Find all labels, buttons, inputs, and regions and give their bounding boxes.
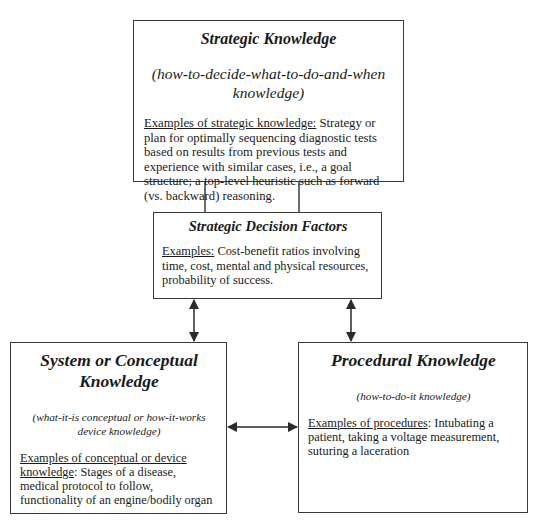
strategic-knowledge-examples: Examples of strategic knowledge: Strateg… <box>144 116 393 203</box>
procedural-knowledge-subtitle: (how-to-do-it knowledge) <box>308 389 519 403</box>
strategic-decision-factors-box: Strategic Decision Factors Examples: Cos… <box>153 212 382 299</box>
system-conceptual-knowledge-title: System or Conceptual Knowledge <box>20 350 218 392</box>
procedural-knowledge-box: Procedural Knowledge (how-to-do-it knowl… <box>298 342 528 513</box>
system-conceptual-knowledge-subtitle: (what-it-is conceptual or how-it-works d… <box>20 410 218 438</box>
examples-label: Examples: <box>162 244 214 258</box>
strategic-decision-factors-title: Strategic Decision Factors <box>162 217 374 235</box>
strategic-knowledge-title: Strategic Knowledge <box>144 29 393 48</box>
strategic-knowledge-box: Strategic Knowledge (how-to-decide-what-… <box>133 20 404 182</box>
examples-label: Examples of procedures <box>308 416 428 430</box>
strategic-decision-factors-examples: Examples: Cost-benefit ratios involving … <box>162 244 374 288</box>
system-conceptual-knowledge-box: System or Conceptual Knowledge (what-it-… <box>10 342 227 514</box>
procedural-knowledge-examples: Examples of procedures: Intubating a pat… <box>308 416 519 458</box>
examples-label: Examples of strategic knowledge: <box>144 116 316 130</box>
strategic-knowledge-subtitle: (how-to-decide-what-to-do-and-when knowl… <box>144 64 393 102</box>
system-conceptual-knowledge-examples: Examples of conceptual or device knowled… <box>20 451 218 507</box>
procedural-knowledge-title: Procedural Knowledge <box>308 350 519 371</box>
